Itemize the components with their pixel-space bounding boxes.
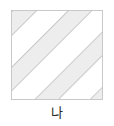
shape-caption-label: 나	[0, 103, 114, 123]
diagonal-stripe-pattern	[12, 11, 102, 99]
striped-square-shape	[11, 10, 103, 100]
figure-root: 나	[0, 0, 114, 126]
stripe-fill-rect	[12, 11, 102, 99]
